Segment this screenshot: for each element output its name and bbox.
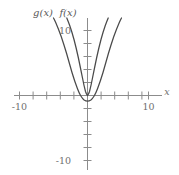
x-axis-tick-label-10: 10 (142, 101, 154, 112)
curve-label-g: g(x) (33, 7, 53, 18)
graph-figure: 10 -10 -10 10 x g(x) f(x) (0, 0, 179, 175)
x-axis-tick-label-minus-10: -10 (12, 101, 27, 112)
y-axis-tick-label-minus-10: -10 (56, 155, 71, 166)
x-axis-label: x (164, 86, 170, 97)
curve-label-f: f(x) (58, 7, 76, 18)
plot-area: 10 -10 -10 10 x g(x) f(x) (0, 0, 179, 175)
y-axis-tick-label-10: 10 (59, 25, 71, 36)
